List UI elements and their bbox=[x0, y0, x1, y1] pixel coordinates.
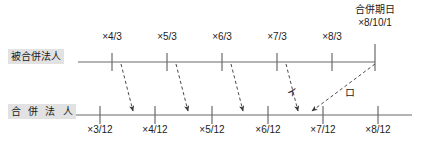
upper-tick-label: ×5/3 bbox=[157, 31, 177, 42]
transfer-arrow bbox=[121, 64, 133, 111]
lower-tick-label: ×5/12 bbox=[199, 124, 224, 135]
lower-tick-label: ×8/12 bbox=[365, 124, 390, 135]
merge-date-title: 合併期日 bbox=[355, 4, 395, 15]
transfer-arrow bbox=[231, 64, 243, 111]
upper-tick-label: ×8/3 bbox=[322, 31, 342, 42]
upper-tick-label: ×6/3 bbox=[212, 31, 232, 42]
lower-timeline-axis bbox=[62, 106, 412, 124]
merge-date-caption: 合併期日 ×8/10/1 bbox=[355, 3, 395, 29]
lower-tick-label: ×3/12 bbox=[87, 124, 112, 135]
row-label-merged-corporation: 被合併法人 bbox=[8, 49, 64, 64]
upper-tick-label: ×4/3 bbox=[102, 31, 122, 42]
merge-date-value: ×8/10/1 bbox=[355, 16, 395, 29]
lower-tick-label: ×4/12 bbox=[142, 124, 167, 135]
transfer-arrows bbox=[121, 64, 375, 111]
upper-tick-label: ×7/3 bbox=[267, 31, 287, 42]
arrow-annotation-イ: イ bbox=[287, 84, 297, 99]
merger-timeline-diagram: 被合併法人 合 併 法 人 合併期日 ×8/10/1 ×4/3×5/3×6/3×… bbox=[0, 0, 427, 146]
lower-tick-label: ×6/12 bbox=[255, 124, 280, 135]
transfer-arrow bbox=[312, 64, 375, 111]
transfer-arrow bbox=[176, 64, 188, 111]
upper-timeline-axis bbox=[78, 44, 375, 71]
row-label-merging-corporation: 合 併 法 人 bbox=[8, 104, 76, 119]
lower-tick-label: ×7/12 bbox=[310, 124, 335, 135]
arrow-annotation-ロ: ロ bbox=[345, 84, 355, 99]
